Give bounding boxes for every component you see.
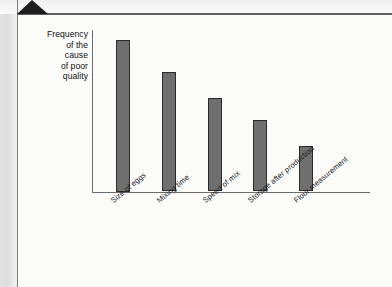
scanned-page: Frequency of the cause of poor quality S… [0, 0, 392, 287]
y-axis-label-line-2: of the [14, 40, 88, 51]
bar-1 [116, 40, 130, 192]
bar-2 [162, 72, 176, 192]
y-axis-label-line-3: cause [14, 50, 88, 61]
pareto-bar-chart: Frequency of the cause of poor quality S… [0, 0, 392, 287]
y-axis-label: Frequency of the cause of poor quality [14, 29, 88, 82]
bar-3 [208, 98, 222, 192]
y-axis-label-line-1: Frequency [14, 29, 88, 40]
y-axis-label-line-5: quality [14, 71, 88, 82]
y-axis-label-line-4: of poor [14, 61, 88, 72]
y-axis-line [92, 30, 93, 193]
x-axis-line [92, 192, 370, 193]
